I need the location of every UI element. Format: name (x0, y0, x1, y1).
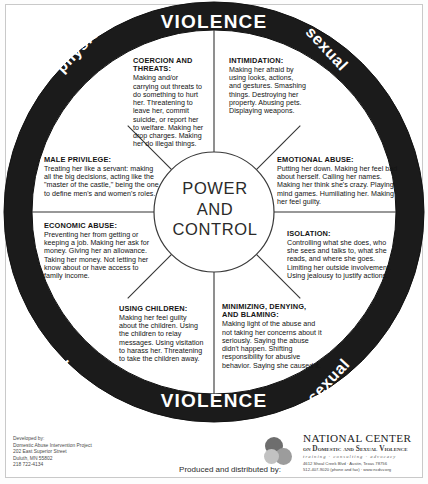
wheel-diagram: VIOLENCE VIOLENCE physical physical sexu… (0, 0, 428, 430)
segment-heading: ISOLATION: (287, 230, 391, 238)
segment-using-children: USING CHILDREN: Making her feel guilty a… (119, 305, 205, 363)
segment-body: Putting her down. Making her feel bad ab… (277, 165, 399, 206)
developed-by-phone: 218 722-4134 (13, 462, 139, 469)
ncdsv-tagline: training · consulting · advocacy (303, 453, 421, 460)
segment-body: Preventing her from getting or keeping a… (44, 231, 156, 281)
footer-credits: Developed by: Domestic Abuse Interventio… (5, 430, 423, 478)
segment-heading: EMOTIONAL ABUSE: (277, 156, 399, 164)
segment-coercion-and-threats: COERCION AND THREATS: Making and/or carr… (133, 57, 205, 149)
center-power-and-control: POWER AND CONTROL (156, 178, 274, 240)
segment-minimizing-denying-and-blaming: MINIMIZING, DENYING, AND BLAMING: Making… (222, 303, 322, 370)
center-line-power: POWER (156, 178, 274, 199)
segment-body: Making light of the abuse and not taking… (222, 320, 322, 370)
segment-heading: COERCION AND THREATS: (133, 57, 205, 74)
center-line-and: AND (156, 199, 274, 220)
segment-body: Making and/or carrying out threats to do… (133, 74, 205, 148)
ncdsv-contact: 512-407-9020 (phone and fax) · www.ncdsv… (303, 467, 421, 472)
ring-label-violence-top: VIOLENCE (141, 11, 287, 33)
center-line-control: CONTROL (156, 219, 274, 240)
circle-light-icon (264, 449, 279, 464)
developed-by-block: Developed by: Domestic Abuse Interventio… (13, 436, 139, 469)
segment-heading: USING CHILDREN: (119, 305, 205, 313)
segment-heading: INTIMIDATION: (229, 57, 307, 65)
segment-heading: MALE PRIVILEGE: (44, 156, 162, 164)
segment-emotional-abuse: EMOTIONAL ABUSE: Putting her down. Makin… (277, 156, 399, 206)
ring-label-violence-bottom: VIOLENCE (141, 390, 287, 412)
segment-body: Making her afraid by using looks, action… (229, 66, 307, 116)
segment-isolation: ISOLATION: Controlling what she does, wh… (287, 230, 391, 280)
ncdsv-text: NATIONAL CENTER on Domestic and Sexual V… (303, 432, 421, 473)
segment-male-privilege: MALE PRIVILEGE: Treating her like a serv… (44, 156, 162, 198)
segment-body: Treating her like a servant: making all … (44, 165, 162, 198)
segment-heading: MINIMIZING, DENYING, AND BLAMING: (222, 303, 322, 320)
segment-intimidation: INTIMIDATION: Making her afraid by using… (229, 57, 307, 115)
ncdsv-name-line2: on Domestic and Sexual Violence (303, 444, 421, 453)
ncdsv-address: 4612 Shoal Creek Blvd · Austin, Texas 78… (303, 461, 421, 466)
segment-body: Controlling what she does, who she sees … (287, 239, 391, 280)
power-and-control-wheel-page: VIOLENCE VIOLENCE physical physical sexu… (0, 0, 428, 484)
ncdsv-circles-icon (263, 437, 299, 467)
segment-economic-abuse: ECONOMIC ABUSE: Preventing her from gett… (44, 222, 156, 280)
segment-heading: ECONOMIC ABUSE: (44, 222, 156, 230)
ncdsv-name-line1: NATIONAL CENTER (303, 432, 421, 444)
segment-body: Making her feel guilty about the childre… (119, 314, 205, 364)
